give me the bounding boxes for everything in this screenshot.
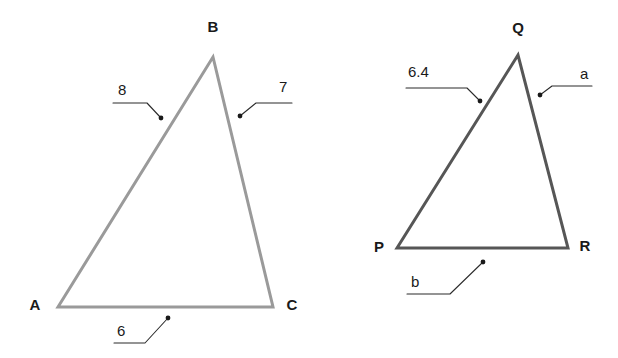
leader-dot-ac [166, 316, 171, 321]
vertex-label-a: A [30, 296, 41, 313]
side-length-ab: 8 [118, 81, 126, 98]
vertex-label-q: Q [512, 19, 524, 36]
leader-dot-pr [481, 260, 486, 265]
leader-dot-bc [238, 114, 243, 119]
side-length-ac: 6 [117, 322, 125, 339]
side-length-pr: b [411, 273, 419, 290]
leader-dot-pq [478, 99, 483, 104]
vertex-label-p: P [374, 238, 384, 255]
vertex-label-c: C [287, 296, 298, 313]
leader-dot-qr [538, 93, 543, 98]
side-length-pq: 6.4 [408, 63, 429, 80]
vertex-label-r: R [580, 237, 591, 254]
vertex-label-b: B [208, 18, 219, 35]
side-length-bc: 7 [279, 78, 287, 95]
geometry-figure: A B C 8 7 6 P Q R 6.4 [0, 0, 618, 358]
figure-background [0, 0, 618, 358]
side-length-qr: a [580, 65, 589, 82]
leader-dot-ab [159, 116, 164, 121]
